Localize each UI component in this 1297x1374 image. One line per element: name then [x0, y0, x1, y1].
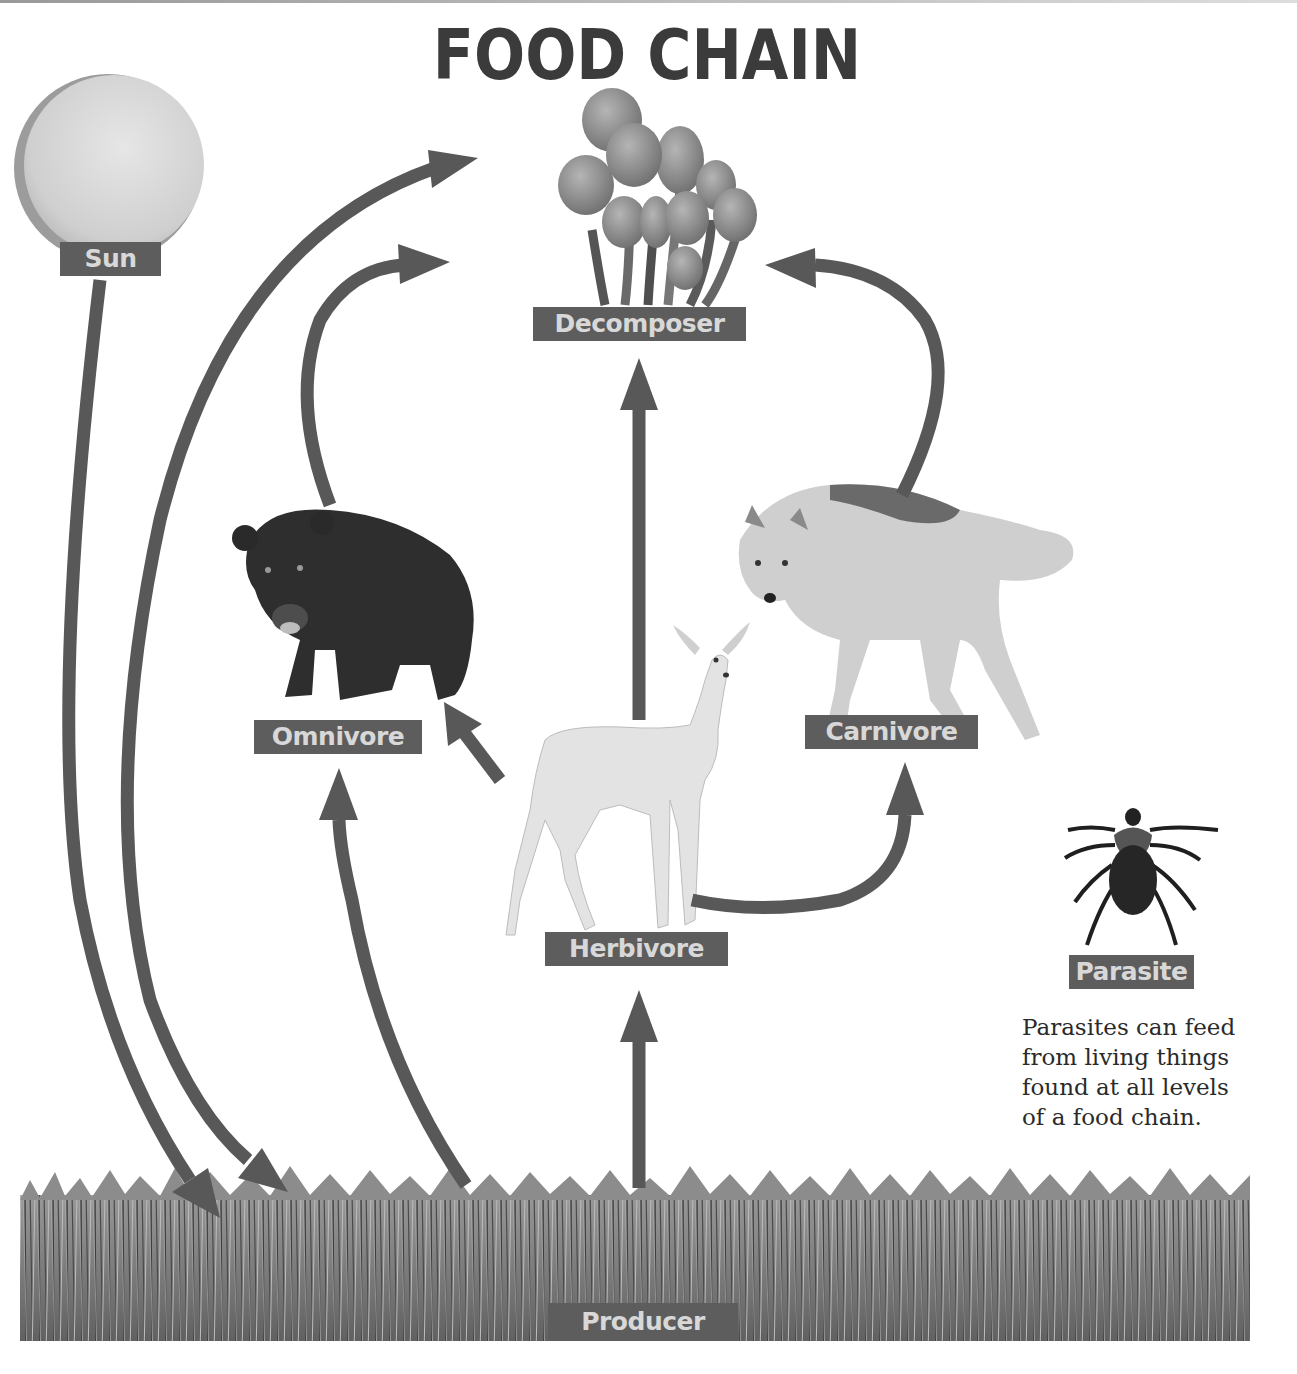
label-omnivore: Omnivore [254, 720, 422, 754]
arrow-decomposer-to-producer [127, 168, 435, 1160]
arrow-carnivore-to-decomposer [815, 265, 938, 495]
arrow-omnivore-to-decomposer [307, 265, 405, 505]
arrows-layer [0, 0, 1297, 1374]
arrow-producer-to-omnivore [339, 820, 466, 1185]
arrow-herbivore-to-omnivore [462, 730, 500, 780]
arrowhead [172, 1168, 220, 1218]
parasite-note-line: found at all levels [1022, 1072, 1262, 1102]
arrowhead [398, 244, 450, 284]
arrowhead [620, 990, 658, 1042]
arrow-herbivore-to-carnivore [692, 815, 905, 908]
label-sun: Sun [60, 242, 161, 276]
label-herbivore: Herbivore [545, 932, 728, 966]
label-producer: Producer [548, 1303, 738, 1341]
arrowhead [886, 762, 924, 815]
parasite-note-line: Parasites can feed [1022, 1012, 1262, 1042]
label-carnivore: Carnivore [805, 715, 978, 749]
label-decomposer: Decomposer [533, 307, 746, 341]
arrowhead [319, 768, 358, 820]
label-parasite: Parasite [1069, 955, 1194, 989]
parasite-note: Parasites can feed from living things fo… [1022, 1012, 1262, 1132]
parasite-note-line: from living things [1022, 1042, 1262, 1072]
arrowhead [620, 358, 658, 410]
parasite-note-line: of a food chain. [1022, 1102, 1262, 1132]
arrowhead [428, 150, 478, 188]
arrowhead [765, 248, 816, 288]
